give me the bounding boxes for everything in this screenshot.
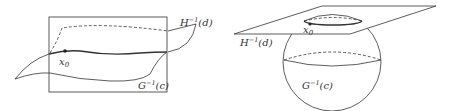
equator-front — [284, 60, 381, 66]
right-figure — [234, 6, 436, 111]
surface-dashed-edge — [50, 26, 168, 53]
surface-lower-edge — [15, 52, 167, 81]
g-inverse-c-label: G−1(c) — [302, 79, 333, 91]
equator-back — [284, 52, 381, 60]
diagram-canvas: H−1(d) G−1(c) x0 H−1(d) G−1(c) x0 — [0, 0, 451, 111]
plane — [234, 6, 436, 34]
point-x0 — [308, 22, 311, 25]
g-inverse-c-label: G−1(c) — [138, 79, 169, 91]
h-inverse-d-label: H−1(d) — [239, 36, 273, 48]
surface-right-edge — [168, 24, 196, 52]
x0-label: x0 — [59, 56, 70, 69]
point-x0 — [63, 49, 67, 53]
